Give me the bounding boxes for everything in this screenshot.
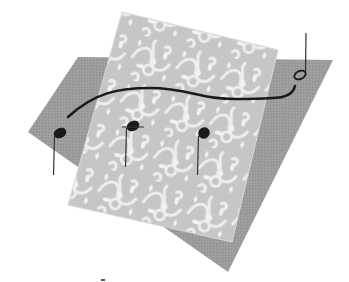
music-notes-illustration	[0, 0, 349, 282]
stray-mark	[101, 279, 105, 281]
